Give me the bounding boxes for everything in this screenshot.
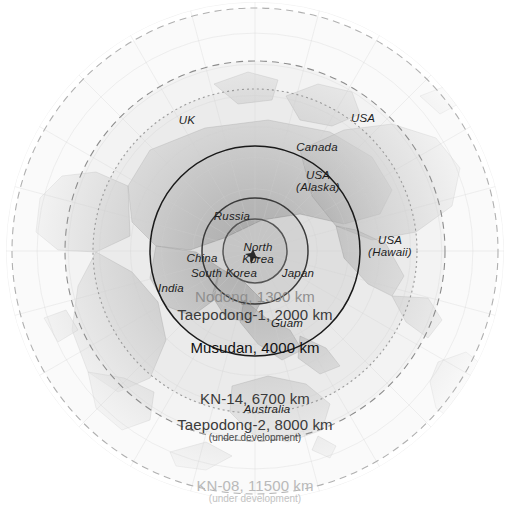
range-ring-map-figure: UKUSACanadaUSA(Alaska)USA(Hawaii)RussiaN… (0, 0, 507, 525)
globe-group (6, 2, 504, 500)
map-canvas (0, 0, 507, 525)
graticule-lines (6, 2, 504, 500)
